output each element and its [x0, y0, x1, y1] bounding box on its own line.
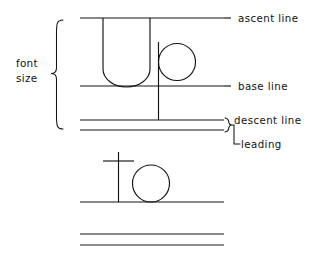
- leading-leader-line: [232, 125, 241, 144]
- font-size-brace: [51, 20, 63, 129]
- ascent-line-label: ascent line: [238, 13, 298, 24]
- base-line-label: base line: [238, 81, 288, 92]
- font-size-label-line-2: size: [16, 72, 37, 84]
- descent-line-label: descent line: [234, 115, 301, 126]
- glyph-lowercase-o: [133, 165, 170, 202]
- typography-diagram-canvas: ascent line base line descent line leadi…: [0, 0, 325, 264]
- font-size-label-line-1: font: [16, 57, 38, 69]
- glyph-p-bowl: [159, 44, 196, 81]
- font-metrics-diagram: ascent line base line descent line leadi…: [0, 0, 325, 264]
- glyph-capital-u: [103, 18, 150, 87]
- leading-brace: [225, 118, 232, 132]
- leading-label: leading: [241, 139, 282, 150]
